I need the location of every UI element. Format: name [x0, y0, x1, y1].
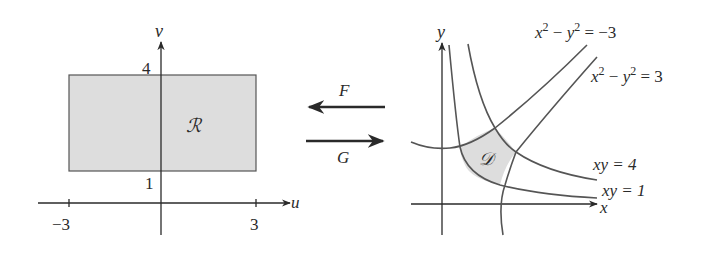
mapping-arrows: F G: [306, 81, 385, 167]
curve-hyperbola-pos3: [501, 57, 597, 235]
v-axis-label: v: [155, 21, 163, 41]
x-axis-label: x: [599, 198, 608, 217]
label-hyperbola-neg3: x2 − y2 = −3: [534, 20, 616, 42]
label-xy-4: xy = 4: [592, 155, 637, 174]
label-xy-1: xy = 1: [601, 181, 646, 200]
diagram-svg: u v 4 1 −3 3 ℛ F G x y 𝒟 x2 − y2 = −3 x2…: [0, 0, 715, 258]
uv-plane: u v 4 1 −3 3 ℛ: [38, 21, 300, 235]
map-F-label: F: [338, 81, 350, 100]
xy-plane: x y 𝒟 x2 − y2 = −3 x2 − y2 = 3 xy = 4 xy…: [411, 20, 663, 235]
map-G-label: G: [337, 148, 349, 167]
label-hyperbola-pos3: x2 − y2 = 3: [590, 64, 663, 86]
u-axis-label: u: [291, 193, 300, 212]
y-axis-label: y: [435, 22, 445, 42]
tick-label-u-3: 3: [250, 215, 259, 234]
region-r-label: ℛ: [186, 114, 203, 136]
tick-label-v-1: 1: [145, 174, 154, 193]
change-of-variables-diagram: u v 4 1 −3 3 ℛ F G x y 𝒟 x2 − y2 = −3 x2…: [0, 0, 715, 258]
tick-label-u-neg3: −3: [52, 215, 70, 234]
tick-label-v-4: 4: [142, 59, 151, 78]
region-r-rectangle: [69, 75, 256, 171]
